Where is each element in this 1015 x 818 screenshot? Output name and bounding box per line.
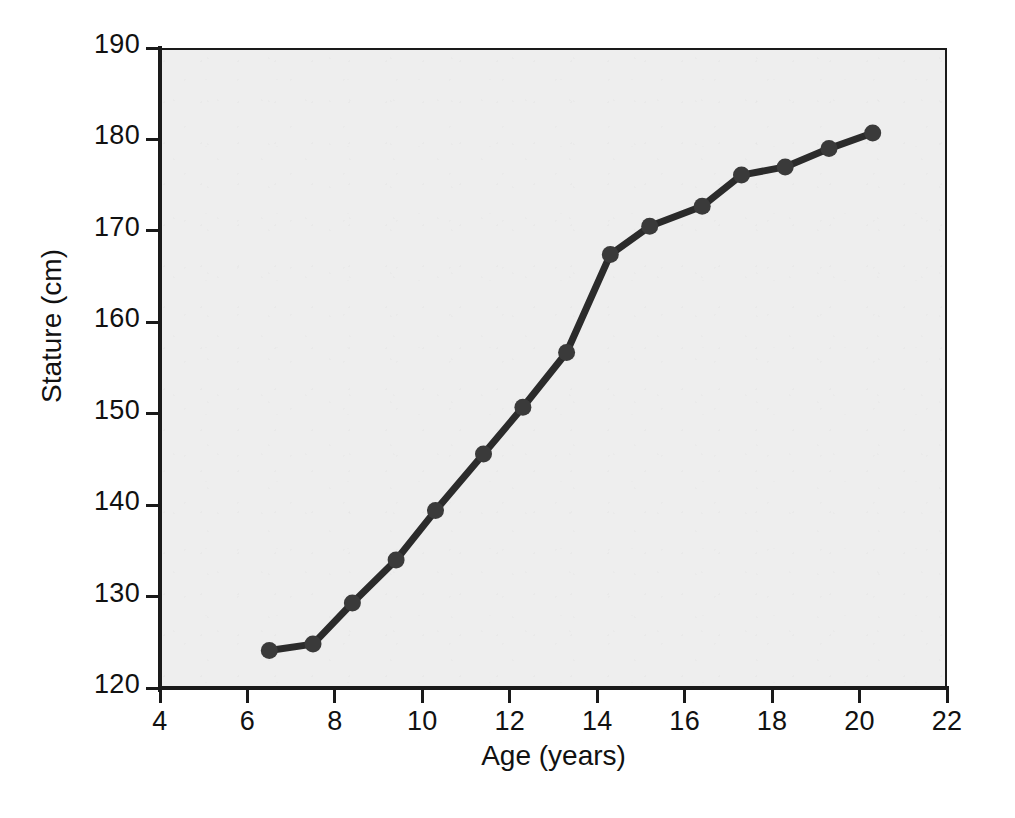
x-tick-label-10: 10 bbox=[392, 706, 452, 737]
x-tick-label-12: 12 bbox=[480, 706, 540, 737]
y-tick-170 bbox=[146, 229, 160, 232]
y-tick-150 bbox=[146, 412, 160, 415]
y-tick-label-120: 120 bbox=[50, 669, 140, 700]
x-tick-label-16: 16 bbox=[655, 706, 715, 737]
x-tick-label-8: 8 bbox=[305, 706, 365, 737]
x-tick-14 bbox=[596, 688, 599, 703]
y-tick-label-130: 130 bbox=[50, 578, 140, 609]
y-tick-130 bbox=[146, 595, 160, 598]
y-tick-140 bbox=[146, 504, 160, 507]
growth-chart-figure: 120130140150160170180190 468101214161820… bbox=[0, 0, 1015, 818]
x-tick-6 bbox=[246, 688, 249, 703]
x-tick-20 bbox=[858, 688, 861, 703]
x-axis-line bbox=[158, 686, 949, 690]
x-tick-4 bbox=[159, 688, 162, 703]
x-tick-label-4: 4 bbox=[130, 706, 190, 737]
y-tick-180 bbox=[146, 138, 160, 141]
x-tick-label-6: 6 bbox=[217, 706, 277, 737]
y-tick-label-180: 180 bbox=[50, 120, 140, 151]
plot-background-texture bbox=[160, 50, 945, 688]
x-tick-label-14: 14 bbox=[567, 706, 627, 737]
x-tick-18 bbox=[771, 688, 774, 703]
y-tick-label-140: 140 bbox=[50, 486, 140, 517]
y-axis-title: Stature (cm) bbox=[36, 186, 68, 466]
x-tick-10 bbox=[421, 688, 424, 703]
x-tick-label-18: 18 bbox=[742, 706, 802, 737]
x-tick-label-20: 20 bbox=[830, 706, 890, 737]
x-tick-label-22: 22 bbox=[917, 706, 977, 737]
plot-area bbox=[160, 48, 947, 688]
x-tick-16 bbox=[683, 688, 686, 703]
x-tick-12 bbox=[508, 688, 511, 703]
x-tick-22 bbox=[946, 688, 949, 703]
x-tick-8 bbox=[333, 688, 336, 703]
y-tick-160 bbox=[146, 321, 160, 324]
x-axis-title: Age (years) bbox=[160, 740, 947, 772]
y-tick-label-190: 190 bbox=[50, 29, 140, 60]
y-tick-190 bbox=[146, 47, 160, 50]
